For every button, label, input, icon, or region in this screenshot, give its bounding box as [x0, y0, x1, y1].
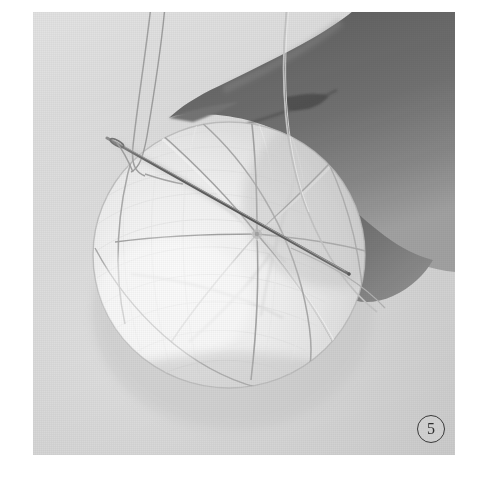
figure-number-badge: 5 [417, 415, 445, 443]
figure-photo: 5 [33, 12, 455, 455]
photo-tone-wash [33, 12, 455, 455]
page-canvas: 5 [0, 0, 486, 502]
figure-number-label: 5 [427, 421, 435, 437]
photo-scene [33, 12, 455, 455]
